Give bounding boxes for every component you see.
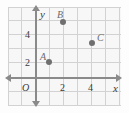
data-point-A-label: A <box>40 52 46 62</box>
y-axis-arrow-down-icon <box>32 101 40 107</box>
data-point-A <box>46 59 52 65</box>
x-axis-arrow-left-icon <box>5 74 11 82</box>
x-axis-arrow-right-icon <box>116 74 122 82</box>
x-axis-line <box>10 77 118 79</box>
origin-label: O <box>22 83 29 93</box>
data-point-B-label: B <box>57 10 63 20</box>
x-axis-label: x <box>113 83 118 94</box>
y-axis-arrow-up-icon <box>32 5 40 11</box>
y-axis-label: y <box>40 9 45 20</box>
gridline-horizontal <box>8 7 121 8</box>
gridline-horizontal <box>8 48 121 49</box>
data-point-C <box>89 40 95 46</box>
y-tick-label-2: 2 <box>25 58 30 68</box>
data-point-C-label: C <box>97 33 104 43</box>
x-tick-label-4: 4 <box>88 83 93 93</box>
coordinate-plane-figure: y x O 4 2 2 4 A B C <box>0 0 129 113</box>
y-tick-label-4: 4 <box>25 30 30 40</box>
x-tick-label-2: 2 <box>60 83 65 93</box>
y-axis-line <box>35 10 37 103</box>
gridline-horizontal <box>8 105 121 106</box>
